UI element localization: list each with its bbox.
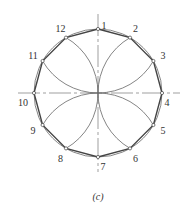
- vertex-point-4: [160, 91, 163, 94]
- vertex-label-11: 11: [28, 50, 38, 61]
- vertex-labels: 123456789101112: [18, 20, 170, 172]
- vertex-point-1: [96, 27, 99, 30]
- vertex-point-2: [128, 36, 131, 39]
- vertex-point-6: [128, 147, 131, 150]
- vertex-label-1: 1: [102, 20, 107, 31]
- vertex-label-6: 6: [133, 153, 138, 164]
- vertex-label-8: 8: [58, 153, 63, 164]
- vertex-point-11: [41, 59, 44, 62]
- vertex-point-12: [64, 36, 67, 39]
- vertex-label-4: 4: [165, 97, 170, 108]
- vertex-point-10: [32, 91, 35, 94]
- vertex-label-7: 7: [101, 161, 106, 172]
- diagram-canvas: 123456789101112 (c): [0, 0, 190, 206]
- vertex-label-10: 10: [18, 97, 28, 108]
- figure-caption: (c): [92, 191, 104, 203]
- vertex-label-9: 9: [31, 125, 36, 136]
- vertex-point-9: [41, 123, 44, 126]
- vertex-point-7: [96, 155, 99, 158]
- dodecagon-construction-diagram: 123456789101112 (c): [0, 0, 190, 206]
- vertex-label-3: 3: [161, 50, 166, 61]
- vertex-label-5: 5: [161, 125, 166, 136]
- vertex-point-5: [152, 123, 155, 126]
- vertex-label-12: 12: [56, 23, 66, 34]
- vertex-label-2: 2: [133, 23, 138, 34]
- vertex-point-8: [64, 147, 67, 150]
- vertex-point-3: [152, 59, 155, 62]
